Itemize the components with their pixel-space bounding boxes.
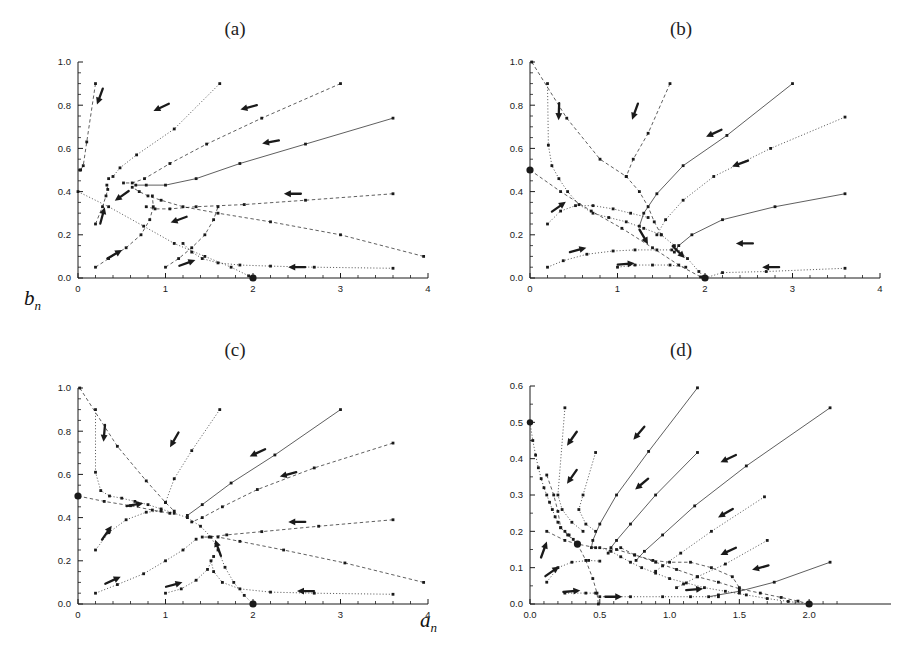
trajectory-point [392,117,395,120]
trajectory-point [693,505,696,508]
trajectory-point [94,549,97,552]
trajectory-point [745,594,748,597]
trajectory-point [724,563,727,566]
trajectory-point [632,158,635,161]
trajectory-point [164,592,167,595]
trajectory-path [183,243,393,268]
trajectory-point [125,518,128,521]
trajectory-point [545,530,548,533]
x-tick-label: 0.5 [593,609,606,620]
x-tick-label: 4 [877,283,882,294]
trajectory-point [587,559,590,562]
trajectory-point [147,195,150,198]
trajectory-point [131,186,134,189]
trajectory-point [651,246,654,249]
x-tick-label: 0.0 [523,609,536,620]
trajectory-point [94,82,97,85]
trajectory-point [574,204,577,207]
trajectory-point [122,182,125,185]
trajectory-point [195,177,198,180]
trajectory-point [640,566,643,569]
panel-a-title: (a) [175,18,295,40]
x-tick-label: 4 [425,609,430,620]
trajectory-point [559,526,562,529]
trajectory-point [686,257,689,260]
trajectory-point [546,266,549,269]
trajectory-point [598,560,601,563]
x-tick-label: 0 [75,283,80,294]
plot-area-c: 012340.00.20.40.60.81.0 [58,382,431,620]
trajectory-point [651,264,654,267]
trajectory-point [173,477,176,480]
trajectory-path [78,192,253,278]
trajectory-point [82,164,85,167]
plot-area-a: 012340.00.20.40.60.81.0 [58,56,431,294]
panel-b: (b) 012340.00.20.40.60.81.0 [451,0,902,326]
trajectory-point [787,600,790,603]
trajectory-point [557,177,560,180]
trajectory-point [77,190,80,193]
panel-a: (a) 012340.00.20.40.60.81.0 [0,0,451,326]
trajectory-point [173,510,176,513]
trajectory-point [797,600,800,603]
trajectory-point [537,466,540,469]
trajectory-point [738,586,741,589]
trajectory-point [677,244,680,247]
trajectory-point [238,587,241,590]
direction-arrow-head [555,113,562,120]
y-tick-label: 0.2 [510,229,523,240]
trajectory-point [582,530,585,533]
direction-arrow-head [288,264,295,271]
trajectory-point [684,266,687,269]
trajectory-point [643,550,646,553]
trajectory-point [182,549,185,552]
trajectory-point [634,249,637,252]
trajectory-point [94,592,97,595]
trajectory-point [78,169,81,172]
panel-b-title: (b) [621,18,741,40]
trajectory-point [669,82,672,85]
trajectory-path [96,539,197,593]
trajectory-point [107,177,110,180]
trajectory-point [620,227,623,230]
trajectory-point [844,116,847,119]
trajectory-point [313,467,316,470]
trajectory-point [201,257,204,260]
y-tick-label: 0.0 [58,598,71,609]
trajectory-point [554,515,557,518]
trajectory-path [96,511,162,550]
trajectory-point [339,82,342,85]
trajectory-point [212,218,215,221]
trajectory-point [647,132,650,135]
direction-arrow-head [214,540,220,548]
trajectory-point [208,536,211,539]
trajectory-point [203,255,206,258]
y-tick-label: 0.0 [58,272,71,283]
trajectory-point [766,597,769,600]
trajectory-point [559,190,562,193]
panel-c-title: (c) [175,339,295,361]
direction-arrow-head [240,104,248,111]
trajectory-point [547,144,550,147]
x-tick-label: 1.0 [663,609,676,620]
trajectory-point [269,591,272,594]
trajectory-point [218,408,221,411]
trajectory-point [304,199,307,202]
trajectory-point [829,561,832,564]
trajectory-point [151,195,154,198]
trajectory-point [682,164,685,167]
x-tick-label: 2 [250,609,255,620]
trajectory-point [101,205,104,208]
trajectory-point [598,523,601,526]
trajectory-point [598,546,601,549]
trajectory-point [78,387,81,390]
x-tick-label: 1 [163,609,168,620]
trajectory-point [619,555,622,558]
trajectory-point [119,166,122,169]
y-tick-label: 0.8 [58,426,71,437]
trajectory-point [642,212,645,215]
trajectory-point [566,534,569,537]
trajectory-point [217,205,220,208]
trajectory-point [738,592,741,595]
trajectory-point [590,210,593,213]
